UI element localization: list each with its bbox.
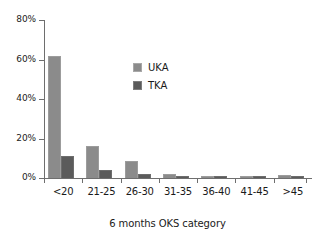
bar-group (201, 20, 227, 178)
x-axis-tick (159, 178, 160, 183)
x-axis-category-label: 41-45 (235, 186, 273, 197)
x-axis-tick (82, 178, 83, 183)
x-axis-tick (235, 178, 236, 183)
bar-group (163, 20, 189, 178)
x-axis-title: 6 months OKS category (0, 218, 335, 230)
chart-legend: UKA TKA (133, 60, 169, 96)
bar-group (86, 20, 112, 178)
x-axis-category-label: 26-30 (121, 186, 159, 197)
bar-group (278, 20, 304, 178)
x-axis-line (44, 178, 312, 179)
bar-tka-0 (61, 156, 74, 178)
bar-tka-4 (214, 176, 227, 178)
bar-group (125, 20, 151, 178)
legend-label-uka: UKA (148, 63, 169, 73)
bar-uka-2 (125, 161, 138, 178)
bar-uka-0 (48, 56, 61, 178)
y-axis-tick-label: 40% (2, 94, 36, 103)
bar-uka-3 (163, 174, 176, 178)
bar-uka-5 (240, 176, 253, 178)
legend-swatch-uka-icon (133, 63, 142, 72)
bar-tka-5 (253, 176, 266, 178)
x-axis-tick (121, 178, 122, 183)
bar-tka-3 (176, 176, 189, 178)
bar-uka-1 (86, 146, 99, 178)
bar-tka-2 (138, 174, 151, 178)
y-axis-tick-label: 80% (2, 15, 36, 24)
x-axis-tick (274, 178, 275, 183)
y-axis-tick-label: 0% (2, 173, 36, 182)
y-axis-tick-label: 60% (2, 55, 36, 64)
legend-item-uka: UKA (133, 60, 169, 75)
bar-uka-6 (278, 175, 291, 178)
y-axis-tick-label: 20% (2, 134, 36, 143)
bar-chart: 80%60%40%20%0% <2021-2526-3031-3536-4041… (0, 0, 335, 247)
plot-area (44, 20, 312, 178)
bar-tka-1 (99, 170, 112, 178)
legend-swatch-tka-icon (133, 81, 142, 90)
legend-item-tka: TKA (133, 78, 169, 93)
x-axis-category-label: >45 (274, 186, 312, 197)
bar-group (240, 20, 266, 178)
x-axis-tick (44, 178, 45, 183)
x-axis-tick (197, 178, 198, 183)
legend-label-tka: TKA (148, 81, 167, 91)
x-axis-category-label: 21-25 (82, 186, 120, 197)
x-axis-tick (306, 178, 307, 183)
bar-uka-4 (201, 176, 214, 178)
x-axis-category-label: 31-35 (159, 186, 197, 197)
x-axis-category-label: 36-40 (197, 186, 235, 197)
x-axis-category-label: <20 (44, 186, 82, 197)
bar-group (48, 20, 74, 178)
bar-tka-6 (291, 176, 304, 178)
